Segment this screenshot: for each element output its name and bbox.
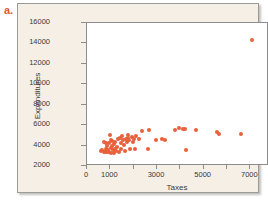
x-axis-tick-label: 3000 [136, 171, 176, 179]
part-label: a. [4, 5, 13, 16]
y-axis-tick-label: 14000 [6, 38, 50, 46]
y-axis-tick-label: 8000 [6, 100, 50, 108]
y-axis-tick-label: 6000 [6, 120, 50, 128]
x-axis-tick [133, 165, 134, 169]
y-axis-tick-label: 2000 [6, 161, 50, 169]
figure-container: a. 200040006000800010000120001400016000 … [0, 0, 268, 207]
scatter-point [250, 38, 254, 42]
y-axis-tick-label: 10000 [6, 79, 50, 87]
x-axis-tick-label: 1000 [89, 171, 129, 179]
scatter-point [194, 128, 198, 132]
x-axis-tick [179, 165, 180, 169]
chart-panel: 200040006000800010000120001400016000 010… [17, 3, 259, 193]
scatter-point [123, 149, 127, 153]
y-axis-tick [81, 42, 86, 43]
x-axis-tick [249, 165, 250, 169]
y-axis-tick-label: 4000 [6, 141, 50, 149]
scatter-point [133, 147, 137, 151]
y-axis-tick [81, 124, 86, 125]
x-axis-tick [109, 165, 110, 169]
y-axis-tick-label: 12000 [6, 59, 50, 67]
y-axis-title: Expenditures [34, 53, 42, 139]
x-axis-tick [226, 165, 227, 169]
y-axis-tick [81, 104, 86, 105]
y-axis-tick [81, 22, 86, 23]
x-axis-tick [156, 165, 157, 169]
x-axis-tick-label: 7000 [229, 171, 268, 179]
x-axis-tick-label: 5000 [183, 171, 223, 179]
y-axis-tick [81, 83, 86, 84]
y-axis-tick [81, 145, 86, 146]
y-axis-tick-label: 16000 [6, 18, 50, 26]
scatter-point [146, 147, 150, 151]
x-axis-title: Taxes [86, 184, 268, 192]
scatter-point [173, 128, 177, 132]
x-axis-tick [203, 165, 204, 169]
y-axis-tick [81, 63, 86, 64]
x-axis-tick [86, 165, 87, 169]
